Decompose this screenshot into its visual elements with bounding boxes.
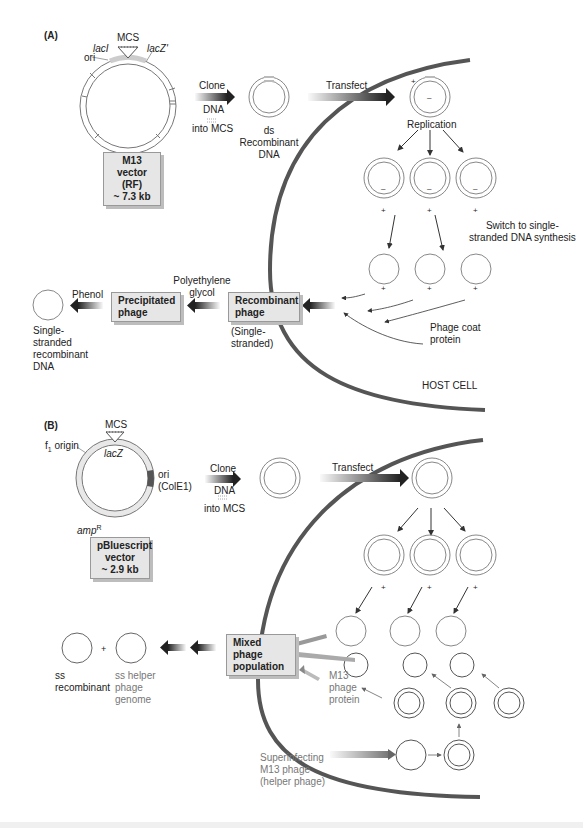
dna-label-a: DNA [203, 104, 224, 116]
plus-sign: + [427, 205, 432, 217]
ss-dna-line4: DNA [33, 361, 88, 373]
single-stranded-line2: stranded) [231, 338, 273, 350]
pbluescript-box-line3: ~ 2.9 kb [97, 564, 143, 576]
plus-sign: + [381, 582, 386, 594]
pbluescript-vector-ring [76, 432, 154, 517]
mixed-box-line1: Mixed phage [233, 637, 289, 661]
pbluescript-box-line1: pBluescript [97, 540, 143, 552]
plus-sign: + [427, 283, 432, 295]
m13-phage-protein-label: M13 phage protein [329, 670, 360, 706]
m13-vector-box: M13 vector (RF) ~ 7.3 kb [103, 152, 161, 206]
polyethylene-glycol-label: Polyethylene glycol [172, 275, 232, 299]
plus-sign: + [473, 283, 478, 295]
f1-rest-text: origin [52, 440, 79, 451]
helper-genome-line2: phage [115, 682, 156, 694]
plus-sign: + [427, 582, 432, 594]
superinfecting-line1: Superinfecting [260, 752, 325, 764]
ss-dna-line1: Single- [33, 325, 88, 337]
ori-label-a: ori [84, 52, 95, 64]
bottom-edge-bar [0, 822, 583, 828]
recombinant-box-line1: Recombinant [235, 295, 293, 307]
coat-label-line1: Phage coat [430, 322, 481, 334]
mcs-label-a: MCS [117, 32, 139, 44]
ds-label-line2: Recombinant [236, 137, 302, 149]
ds-recombinant-circle [249, 77, 289, 117]
replication-label: Replication [407, 119, 456, 131]
m13-protein-line3: protein [329, 694, 360, 706]
mixed-box-line2: population [233, 661, 289, 673]
plus-sign: + [473, 582, 478, 594]
panel-a-label: (A) [44, 30, 58, 42]
amp-text: amp [77, 525, 96, 536]
host-cell-membrane-a [270, 60, 485, 410]
into-mcs-label-b: into MCS [204, 503, 245, 515]
ss-recombinant-line2: recombinant [55, 682, 110, 694]
m13-vector-box-line1: M13 vector [110, 155, 154, 179]
recombinant-box-line2: phage [235, 307, 293, 319]
minus-sign: – [427, 92, 431, 104]
lacz-prime-label: lacZ' [147, 43, 168, 55]
ds-recombinant-label: ds Recombinant DNA [236, 125, 302, 161]
m13-vector-box-line3: ~ 7.3 kb [110, 191, 154, 203]
transfect-label-b: Transfect [332, 462, 373, 474]
mixed-phage-population-box: Mixed phage population [226, 634, 296, 676]
coat-label-line2: protein [430, 334, 481, 346]
m13-protein-line2: phage [329, 682, 360, 694]
switch-to-ss-label: Switch to single- stranded DNA synthesis [469, 220, 576, 244]
helper-genome-line3: genome [115, 694, 156, 706]
m13-vector-box-line2: (RF) [110, 179, 154, 191]
ss-recombinant-line1: ss [55, 670, 110, 682]
switch-label-line2: stranded DNA synthesis [469, 232, 576, 244]
mcs-label-b: MCS [105, 419, 127, 431]
plus-sign: + [411, 76, 416, 88]
f1-origin-label: f1 origin [45, 440, 79, 456]
minus-sign: – [427, 183, 431, 195]
host-cell-label: HOST CELL [422, 380, 477, 392]
clone-label-a: Clone [199, 80, 225, 92]
ss-circles-a [369, 254, 491, 284]
lacz-label-b: lacZ [104, 448, 123, 460]
plus-sign: + [101, 643, 106, 655]
minus-sign: – [381, 183, 385, 195]
plus-sign: + [381, 205, 386, 217]
ss-recombinant-label: ss recombinant [55, 670, 110, 694]
amp-superscript: R [96, 524, 101, 531]
precipitated-box-line1: Precipitated [118, 295, 174, 307]
ori-line2: (ColE1) [158, 481, 192, 493]
helper-ss-circles [344, 653, 474, 677]
pbluescript-vector-box: pBluescript vector ~ 2.9 kb [90, 537, 150, 579]
transfect-label-a: Transfect [326, 80, 367, 92]
ss-dna-line3: recombinant [33, 349, 88, 361]
phage-coat-protein-label: Phage coat protein [430, 322, 481, 346]
into-mcs-label-a: into MCS [192, 123, 233, 135]
phenol-label: Phenol [72, 289, 103, 301]
precipitated-phage-box: Precipitated phage [111, 292, 181, 322]
superinfecting-line3: (helper phage) [260, 776, 325, 788]
ss-recombinant-dna-label: Single- stranded recombinant DNA [33, 325, 88, 373]
ss-recombinant-dna-circle [33, 290, 63, 320]
superinfecting-line2: M13 phage [260, 764, 325, 776]
ss-circles-b [336, 616, 466, 646]
dna-label-b: DNA [214, 485, 235, 497]
minus-sign: – [473, 183, 477, 195]
laci-label: lacI [93, 43, 109, 55]
ss-helper-genome-label: ss helper phage genome [115, 670, 156, 706]
ori-line1: ori [158, 469, 192, 481]
ds-rf-circles-b [364, 535, 496, 575]
peg-line2: glycol [172, 287, 232, 299]
ori-cole1-label: ori (ColE1) [158, 469, 192, 493]
ds-label-line3: DNA [236, 149, 302, 161]
plus-sign: + [473, 205, 478, 217]
superinfecting-m13-label: Superinfecting M13 phage (helper phage) [260, 752, 325, 788]
single-stranded-label: (Single- stranded) [231, 326, 273, 350]
clone-label-b: Clone [210, 463, 236, 475]
ss-recombinant-circle-b [62, 633, 92, 663]
peg-line1: Polyethylene [172, 275, 232, 287]
plus-sign: + [381, 283, 386, 295]
helper-genome-line1: ss helper [115, 670, 156, 682]
panel-b-label: (B) [44, 420, 58, 432]
ss-dna-line2: stranded [33, 337, 88, 349]
m13-protein-line1: M13 [329, 670, 360, 682]
ss-helper-genome-circle [116, 633, 146, 663]
ds-label-line1: ds [236, 125, 302, 137]
